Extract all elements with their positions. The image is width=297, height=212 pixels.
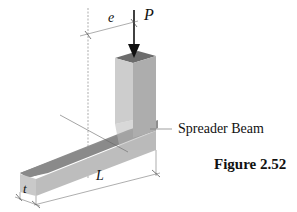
label-spreader-beam: Spreader Beam bbox=[178, 121, 264, 136]
label-l: L bbox=[95, 168, 104, 183]
spreader-beam-figure: e P L t Spreader Beam Figure 2.52 bbox=[0, 0, 297, 212]
label-p: P bbox=[143, 6, 154, 23]
label-e: e bbox=[108, 10, 114, 25]
post-front-face bbox=[115, 58, 133, 124]
post-side-face bbox=[133, 56, 156, 138]
figure-caption: Figure 2.52 bbox=[214, 156, 286, 172]
label-t: t bbox=[23, 181, 27, 196]
